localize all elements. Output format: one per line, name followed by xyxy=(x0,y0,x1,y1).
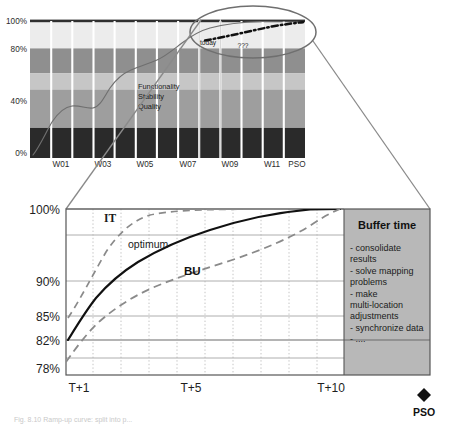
top-y-tick-100: 100% xyxy=(6,17,27,26)
buffer-item-2: - solve mapping xyxy=(350,266,414,276)
bottom-x-tick-t1: T+1 xyxy=(68,381,89,395)
bottom-y-tick-100: 100% xyxy=(29,203,60,217)
buffer-item-5: multi-location xyxy=(350,300,403,310)
top-x-tick-w11: W11 xyxy=(264,160,281,169)
top-chart: 100% 80% 40% 0% W01 W03 W05 W07 W09 W11 … xyxy=(6,6,316,169)
band-label-functionality: Functionality xyxy=(138,82,180,91)
buffer-item-4: - make xyxy=(350,289,378,299)
unknown-label: ??? xyxy=(237,42,248,49)
series-label-bu: BU xyxy=(184,265,201,277)
top-y-tick-40: 40% xyxy=(11,97,27,106)
series-label-it: IT xyxy=(104,212,116,224)
buffer-item-8: - .... xyxy=(350,334,366,344)
series-label-optimum: optimum xyxy=(128,238,169,250)
bottom-y-tick-82: 82% xyxy=(36,334,60,348)
top-x-tick-w01: W01 xyxy=(53,160,70,169)
pso-marker-label: PSO xyxy=(413,406,435,418)
bottom-chart-y-axis: 100% 90% 85% 82% 78% xyxy=(29,203,60,376)
bottom-chart-x-axis: T+1 T+5 T+10 xyxy=(68,381,345,395)
top-x-tick-w07: W07 xyxy=(180,160,197,169)
ramp-up-figure: 100% 80% 40% 0% W01 W03 W05 W07 W09 W11 … xyxy=(0,0,453,426)
top-y-tick-0: 0% xyxy=(15,149,27,158)
buffer-time-title: Buffer time xyxy=(358,219,416,231)
bottom-y-tick-90: 90% xyxy=(36,275,60,289)
bottom-x-tick-t10: T+10 xyxy=(317,381,345,395)
top-chart-y-axis: 100% 80% 40% 0% xyxy=(6,17,27,159)
today-label: today xyxy=(200,39,217,47)
bottom-y-tick-85: 85% xyxy=(36,310,60,324)
bottom-x-tick-t5: T+5 xyxy=(180,381,201,395)
top-y-tick-80: 80% xyxy=(11,45,27,54)
band-label-stability: Stability xyxy=(138,92,164,101)
connector-right xyxy=(313,41,430,209)
pso-diamond-icon xyxy=(417,388,431,402)
buffer-item-0: - consolidate xyxy=(350,243,401,253)
buffer-item-6: adjustments xyxy=(350,311,399,321)
top-chart-x-axis: W01 W03 W05 W07 W09 W11 PSO xyxy=(53,160,306,169)
buffer-item-3: problems xyxy=(350,277,388,287)
buffer-item-7: - synchronize data xyxy=(350,323,424,333)
figure-root: 100% 80% 40% 0% W01 W03 W05 W07 W09 W11 … xyxy=(0,0,453,426)
buffer-item-1: results xyxy=(350,254,377,264)
top-x-tick-w09: W09 xyxy=(222,160,239,169)
figure-caption: Fig. 8.10 Ramp-up curve: split into p... xyxy=(14,416,132,424)
top-x-tick-w05: W05 xyxy=(137,160,154,169)
bottom-y-tick-78: 78% xyxy=(36,362,60,376)
top-x-tick-pso: PSO xyxy=(288,160,305,169)
